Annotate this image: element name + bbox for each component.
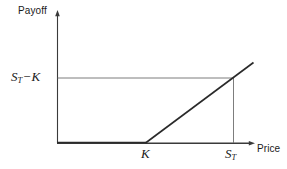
x-tick-label-strike: K xyxy=(141,147,150,160)
x-axis-title: Price xyxy=(257,144,280,154)
y-tick-symbol-k: K xyxy=(32,69,41,84)
y-tick-minus-operator: − xyxy=(22,69,31,84)
x-axis-arrowhead xyxy=(249,141,255,146)
payoff-diagram-figure: Payoff Price ST−K K ST xyxy=(0,0,287,169)
y-axis xyxy=(55,10,60,143)
y-axis-arrowhead xyxy=(55,10,60,16)
y-axis-title: Payoff xyxy=(18,6,47,16)
payoff-curve xyxy=(57,63,254,144)
x-tick-subscript-t: T xyxy=(232,152,237,162)
plot-canvas xyxy=(0,0,287,169)
x-tick-label-spot: ST xyxy=(225,147,236,162)
y-tick-label-payoff-level: ST−K xyxy=(11,70,40,85)
